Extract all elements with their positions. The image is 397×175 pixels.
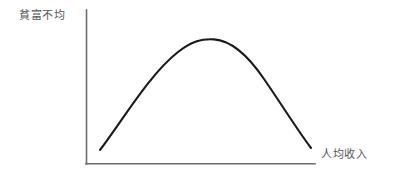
kuznets-curve-figure: 貧富不均 人均收入 — [0, 0, 397, 175]
x-axis-label: 人均收入 — [321, 148, 367, 161]
y-axis-label: 貧富不均 — [19, 9, 65, 22]
inequality-curve — [100, 39, 311, 150]
